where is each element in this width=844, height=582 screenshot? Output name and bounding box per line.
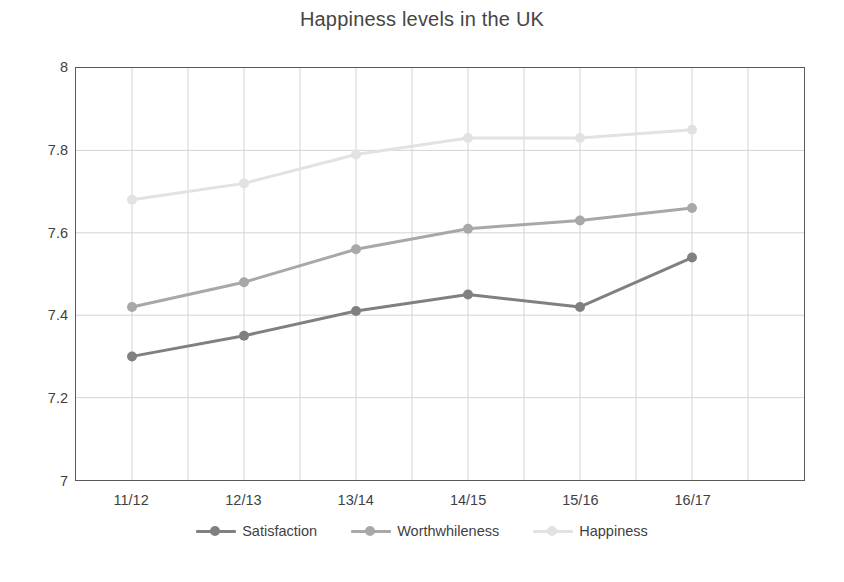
legend-label: Worthwhileness <box>397 524 499 539</box>
x-axis-tick-label: 14/15 <box>450 492 486 508</box>
series-satisfaction <box>127 253 697 362</box>
data-point <box>351 244 361 254</box>
chart-title: Happiness levels in the UK <box>0 8 844 31</box>
data-point <box>575 215 585 225</box>
legend-label: Happiness <box>579 524 648 539</box>
data-point <box>575 133 585 143</box>
data-point <box>463 224 473 234</box>
legend-label: Satisfaction <box>242 524 317 539</box>
data-point <box>687 253 697 263</box>
series-layer <box>76 68 804 480</box>
data-point <box>127 195 137 205</box>
y-axis-tick-label: 7.8 <box>6 142 68 158</box>
y-axis-tick-label: 8 <box>6 59 68 75</box>
data-point <box>239 277 249 287</box>
data-point <box>127 351 137 361</box>
y-axis-tick-label: 7.4 <box>6 307 68 323</box>
data-point <box>463 133 473 143</box>
series-happiness <box>127 125 697 205</box>
y-axis-tick-label: 7 <box>6 473 68 489</box>
data-point <box>351 306 361 316</box>
data-point <box>463 290 473 300</box>
y-axis-labels: 77.27.47.67.88 <box>0 0 68 582</box>
x-axis-tick-label: 11/12 <box>114 492 149 508</box>
legend-item-satisfaction[interactable]: Satisfaction <box>196 524 317 539</box>
plot-area <box>75 67 805 481</box>
x-axis-tick-label: 16/17 <box>675 492 711 508</box>
data-point <box>687 125 697 135</box>
x-axis-labels: 11/1212/1313/1414/1515/1616/17 <box>75 492 805 516</box>
x-axis-tick-label: 15/16 <box>562 492 598 508</box>
legend-item-worthwhileness[interactable]: Worthwhileness <box>351 524 499 539</box>
data-point <box>351 150 361 160</box>
y-axis-tick-label: 7.6 <box>6 225 68 241</box>
series-worthwhileness <box>127 203 697 312</box>
legend-item-happiness[interactable]: Happiness <box>533 524 648 539</box>
x-axis-tick-label: 13/14 <box>338 492 374 508</box>
legend-swatch-icon <box>533 525 573 537</box>
legend-swatch-icon <box>351 525 391 537</box>
line-chart: Happiness levels in the UK 77.27.47.67.8… <box>0 0 844 582</box>
data-point <box>239 331 249 341</box>
x-axis-tick-label: 12/13 <box>225 492 261 508</box>
data-point <box>239 178 249 188</box>
y-axis-tick-label: 7.2 <box>6 390 68 406</box>
chart-legend: SatisfactionWorthwhilenessHappiness <box>0 524 844 539</box>
legend-swatch-icon <box>196 525 236 537</box>
data-point <box>687 203 697 213</box>
data-point <box>575 302 585 312</box>
data-point <box>127 302 137 312</box>
